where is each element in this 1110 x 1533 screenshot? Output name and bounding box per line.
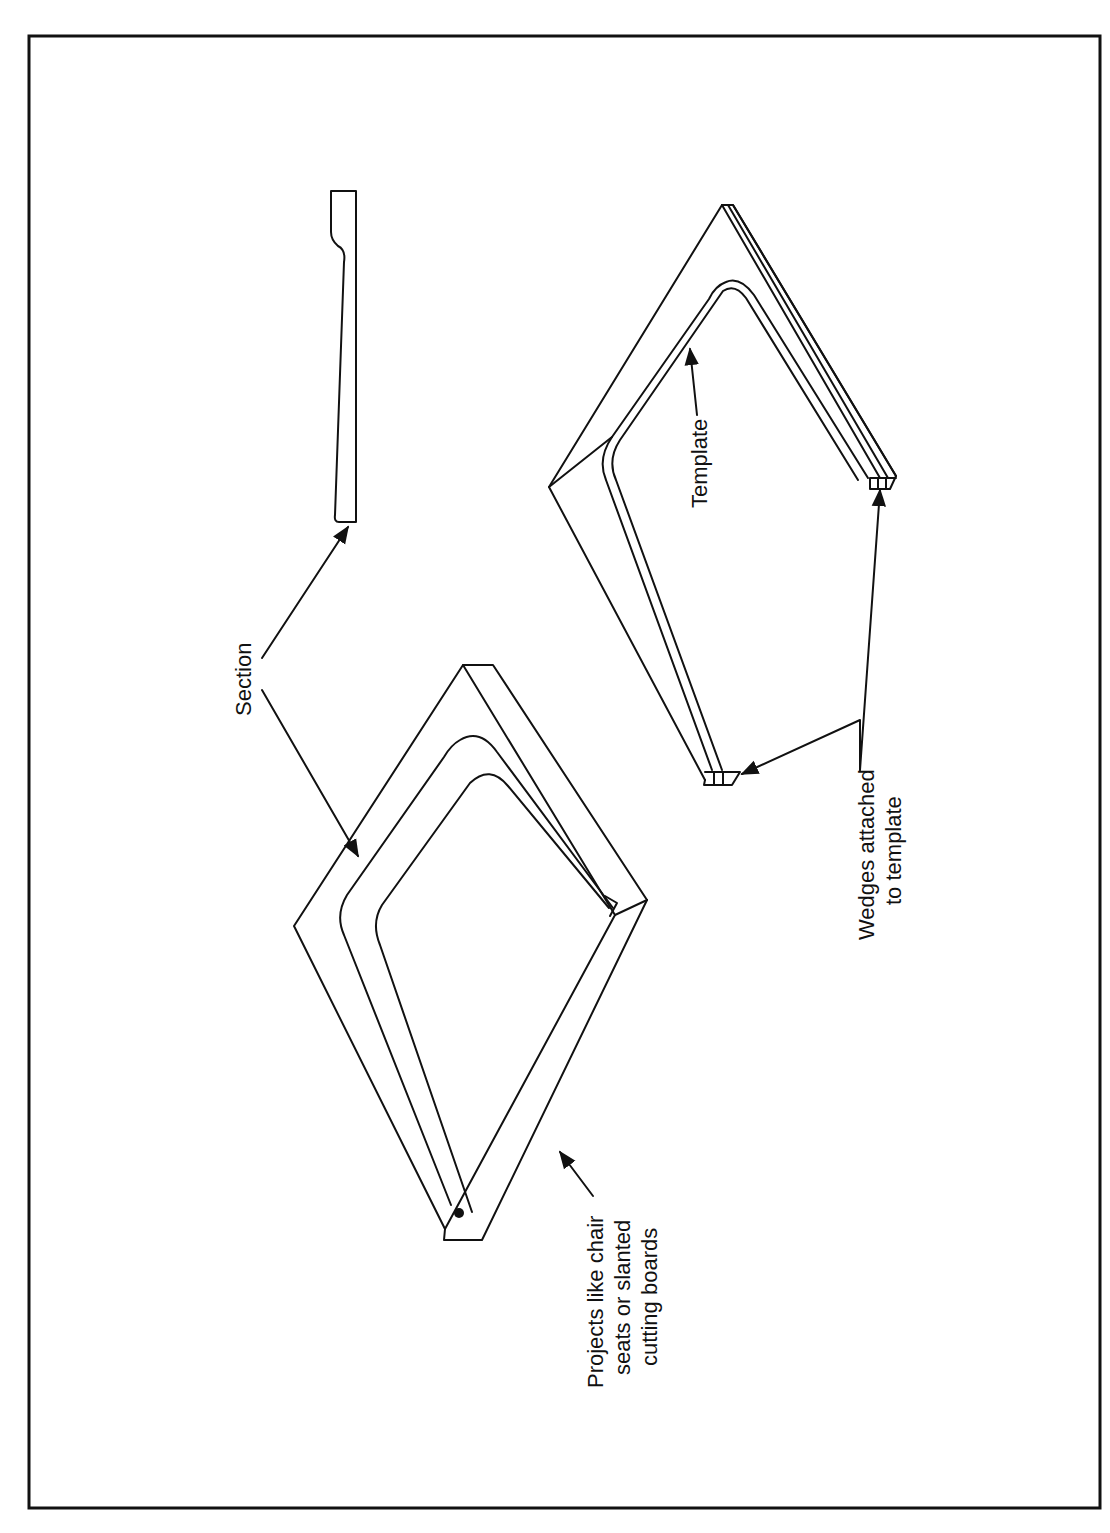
label-wedges: Wedges attached to template: [854, 769, 906, 940]
section-arrow-bottom: [262, 690, 358, 856]
svg-text:Projects like chair: Projects like chair: [583, 1216, 608, 1388]
label-projects: Projects like chair seats or slanted cut…: [583, 1216, 662, 1388]
diagram-canvas: Section Template Projects like chair sea…: [0, 0, 1110, 1533]
section-profile: [331, 191, 356, 522]
svg-text:Wedges attached: Wedges attached: [854, 769, 879, 940]
figure-border: [29, 36, 1100, 1508]
section-arrow-top: [262, 527, 348, 658]
template-arrow: [690, 349, 697, 415]
leader-lines: [262, 349, 880, 1196]
label-template: Template: [687, 419, 712, 508]
wedges-arrow-top: [860, 490, 880, 770]
label-section: Section: [231, 643, 256, 716]
projects-arrow: [560, 1152, 593, 1196]
svg-text:seats or slanted: seats or slanted: [610, 1220, 635, 1375]
wedges-arrow-bottom: [742, 720, 860, 774]
svg-text:to template: to template: [881, 796, 906, 905]
slanted-board: [294, 665, 647, 1240]
svg-text:cutting boards: cutting boards: [637, 1228, 662, 1366]
template-jig: [549, 205, 896, 785]
